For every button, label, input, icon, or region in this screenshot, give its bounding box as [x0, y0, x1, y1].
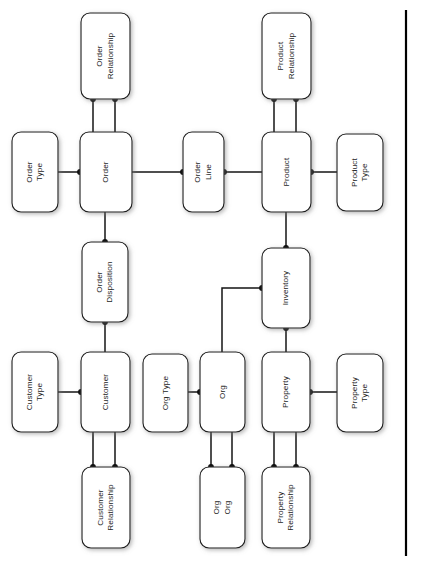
entity-label-line: Order — [95, 271, 104, 293]
erd-canvas: OrderRelationshipProductRelationshipOrde… — [0, 0, 425, 561]
connector-org-to-inventory — [222, 285, 265, 352]
entity-label-line: Order — [25, 161, 34, 183]
entity-label-line: Relationship — [106, 32, 115, 79]
connector-order-to-order-line — [132, 169, 186, 175]
connector-order-type-to-order — [58, 169, 83, 175]
entity-label-line: Property — [276, 491, 285, 524]
entity-customer-relationship[interactable]: CustomerRelationship — [82, 467, 130, 548]
entity-org-org[interactable]: OrgOrg — [200, 467, 245, 548]
connector-order-line-to-product — [221, 169, 262, 175]
entity-label-line: Org — [218, 385, 227, 399]
entity-label-group: OrderLine — [193, 161, 213, 183]
entity-label-line: Order — [101, 161, 110, 183]
connector-property-to-property-relationship-b — [293, 432, 299, 470]
entity-org-type[interactable]: Org Type — [143, 354, 188, 432]
entity-label-group: Org — [218, 385, 227, 399]
entity-label-line: Relationship — [287, 32, 296, 79]
entity-inventory[interactable]: Inventory — [262, 248, 310, 328]
entity-label-line: Order — [95, 45, 104, 67]
entity-order-relationship[interactable]: OrderRelationship — [81, 13, 130, 99]
entity-label-line: Order — [193, 161, 202, 183]
entity-label-line: Customer — [25, 374, 34, 410]
entity-product-relationship[interactable]: ProductRelationship — [262, 13, 311, 99]
entity-property[interactable]: Property — [262, 352, 310, 432]
entity-label-group: CustomerRelationship — [96, 484, 116, 531]
entity-label-line: Org — [223, 501, 232, 515]
entities-layer: OrderRelationshipProductRelationshipOrde… — [12, 13, 383, 548]
entity-order-type[interactable]: OrderType — [12, 132, 58, 212]
entity-label-line: Product — [282, 157, 291, 187]
entity-label-line: Inventory — [281, 270, 290, 305]
connector-inventory-to-property — [283, 325, 289, 352]
entity-label-group: Inventory — [281, 270, 290, 305]
entity-label-line: Customer — [101, 374, 110, 410]
connector-customer-to-customer-relationship-b — [112, 432, 118, 470]
entity-label-line: Customer — [96, 489, 105, 525]
connector-org-to-org-org-b — [229, 432, 235, 470]
connector-order-to-order-disposition — [102, 212, 108, 245]
entity-order-line[interactable]: OrderLine — [183, 132, 224, 212]
connector-order-relationship-to-order-a — [90, 96, 96, 132]
connector-line — [222, 288, 262, 352]
entity-order-disposition[interactable]: OrderDisposition — [82, 242, 128, 322]
entity-customer[interactable]: Customer — [81, 352, 130, 432]
connector-order-relationship-to-order-b — [112, 96, 118, 132]
entity-label-line: Property — [350, 376, 359, 409]
entity-property-relationship[interactable]: PropertyRelationship — [262, 467, 310, 548]
connector-customer-to-customer-relationship-a — [90, 432, 96, 470]
entity-label-line: Type — [35, 163, 44, 181]
connector-order-disposition-to-customer — [102, 319, 108, 352]
connector-org-to-org-org-a — [208, 432, 214, 470]
entity-customer-type[interactable]: CustomerType — [12, 352, 58, 432]
entity-label-line: Type — [360, 163, 369, 181]
entity-product-type[interactable]: ProductType — [337, 134, 383, 211]
entity-label-line: Disposition — [105, 261, 114, 302]
entity-org[interactable]: Org — [200, 352, 245, 432]
entity-label-line: Type — [35, 383, 44, 401]
entity-label-line: Org Type — [161, 375, 170, 410]
entity-label-group: Org Type — [161, 375, 170, 410]
entity-label-line: Relationship — [286, 484, 295, 531]
connector-customer-type-to-customer — [58, 389, 84, 395]
entity-label-line: Property — [281, 375, 290, 408]
entity-label-group: OrderType — [25, 161, 45, 183]
connector-product-to-inventory — [283, 212, 289, 251]
entity-label-line: Relationship — [106, 484, 115, 531]
entity-label-line: Product — [276, 41, 285, 71]
entity-label-line: Org — [212, 501, 221, 515]
entity-label-group: Product — [282, 157, 291, 187]
connector-product-relationship-to-product-b — [293, 96, 299, 132]
entity-relationship-diagram: OrderRelationshipProductRelationshipOrde… — [0, 0, 425, 561]
entity-label-line: Product — [350, 157, 359, 187]
entity-order[interactable]: Order — [80, 132, 132, 212]
connector-product-to-product-type — [308, 169, 337, 175]
entity-product[interactable]: Product — [262, 132, 311, 212]
entity-label-line: Type — [360, 384, 369, 402]
entity-label-group: Customer — [101, 374, 110, 410]
entity-property-type[interactable]: PropertyType — [337, 354, 383, 432]
connector-product-relationship-to-product-a — [271, 96, 277, 132]
entity-label-group: Property — [281, 375, 290, 408]
connector-property-to-property-type — [307, 389, 337, 395]
connector-property-to-property-relationship-a — [271, 432, 277, 470]
entity-label-group: OrgOrg — [212, 501, 232, 515]
entity-label-line: Line — [204, 164, 213, 180]
entity-label-group: Order — [101, 161, 110, 183]
